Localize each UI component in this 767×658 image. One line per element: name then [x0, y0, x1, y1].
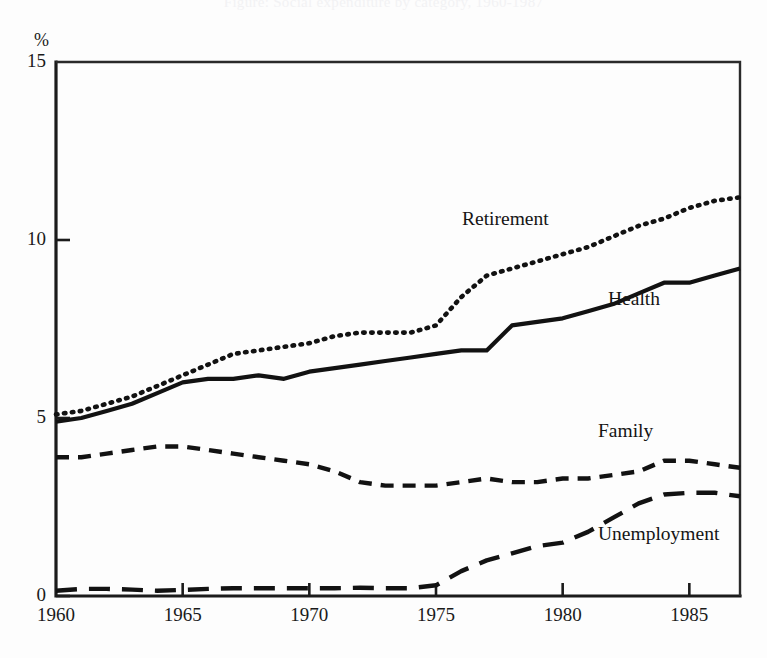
series-label-unemployment: Unemployment: [598, 523, 719, 545]
y-tick-15: 15: [12, 50, 46, 72]
y-tick-0: 0: [12, 584, 46, 606]
x-tick-1970: 1970: [279, 604, 339, 626]
x-tick-1965: 1965: [153, 604, 213, 626]
series-label-retirement: Retirement: [462, 208, 549, 230]
x-tick-1985: 1985: [659, 604, 719, 626]
y-tick-10: 10: [12, 228, 46, 250]
chart-plot-area: [0, 0, 767, 658]
chart-figure: Figure: Social expenditure by category, …: [0, 0, 767, 658]
chart-axes: [56, 62, 740, 596]
series-line-family: [56, 447, 740, 486]
y-tick-5: 5: [12, 406, 46, 428]
series-label-health: Health: [608, 288, 660, 310]
x-tick-1980: 1980: [533, 604, 593, 626]
x-tick-1960: 1960: [26, 604, 86, 626]
series-label-family: Family: [598, 420, 653, 442]
x-tick-1975: 1975: [406, 604, 466, 626]
